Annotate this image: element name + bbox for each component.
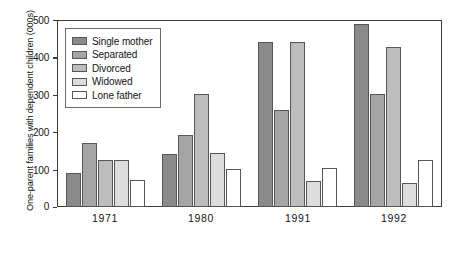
bar-1992-lone-father [418,160,433,207]
legend-label-single-mother: Single mother [92,36,152,47]
bar-1971-widowed [114,160,129,207]
bar-group-1980 [153,20,249,207]
legend-item-single-mother: Single mother [72,35,152,48]
bar-1991-lone-father [322,168,337,207]
legend-label-separated: Separated [92,49,137,60]
bar-1980-widowed [210,153,225,207]
bar-chart: One-parent families with dependent child… [0,0,456,254]
y-axis-title: One-parent families with dependent child… [25,11,35,211]
bar-1971-divorced [98,160,113,207]
bar-1991-single-mother [258,42,273,207]
bar-1980-lone-father [226,169,241,207]
bar-1992-single-mother [354,24,369,207]
bar-1991-divorced [290,42,305,207]
bar-1992-widowed [402,183,417,207]
bar-group-1992 [346,20,442,207]
bar-1992-divorced [386,47,401,207]
legend-item-lone-father: Lone father [72,89,152,102]
y-tick-500: 500 [21,15,49,26]
legend-item-separated: Separated [72,48,152,61]
legend-label-widowed: Widowed [92,76,132,87]
y-tick-100: 100 [21,165,49,176]
y-tick-400: 400 [21,52,49,63]
y-tick-300: 300 [21,90,49,101]
bar-1991-separated [274,110,289,207]
bar-1971-single-mother [66,173,81,207]
bar-1971-lone-father [130,180,145,207]
bar-group-1991 [250,20,346,207]
bar-1971-separated [82,143,97,207]
legend-swatch-icon-single-mother [72,37,87,45]
legend-item-divorced: Divorced [72,62,152,75]
bar-1991-widowed [306,181,321,207]
legend-swatch-icon-lone-father [72,91,87,99]
legend-label-divorced: Divorced [92,63,131,74]
legend-label-lone-father: Lone father [92,90,142,101]
legend-swatch-icon-separated [72,51,87,59]
bar-1980-separated [178,135,193,207]
bar-1992-separated [370,94,385,207]
bar-1980-divorced [194,94,209,207]
bar-1980-single-mother [162,154,177,207]
y-tick-200: 200 [21,127,49,138]
x-tick-1992: 1992 [346,212,442,224]
legend: Single mother Separated Divorced Widowed… [65,28,161,108]
y-tick-0: 0 [21,201,49,212]
x-tick-1971: 1971 [57,212,153,224]
tickmark-0 [53,207,57,208]
legend-swatch-icon-divorced [72,64,87,72]
legend-item-widowed: Widowed [72,75,152,88]
legend-swatch-icon-widowed [72,78,87,86]
x-tick-1980: 1980 [153,212,249,224]
x-tick-1991: 1991 [250,212,346,224]
